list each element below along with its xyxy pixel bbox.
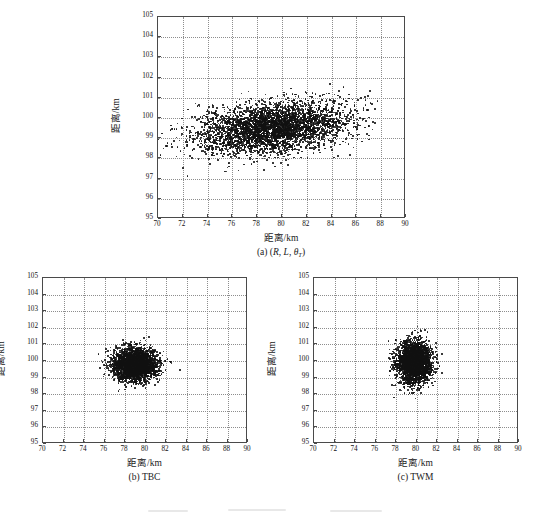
scatter-point: [218, 133, 220, 135]
scatter-point: [315, 122, 317, 124]
scatter-point: [415, 377, 417, 379]
scatter-point: [161, 373, 163, 375]
scatter-point: [333, 100, 335, 102]
y-tick-label: 96: [287, 423, 309, 430]
caption-a: (a) (R, L, θT): [157, 247, 405, 258]
y-tick-label: 99: [131, 134, 153, 141]
scatter-point: [141, 379, 143, 381]
scatter-point: [411, 369, 413, 371]
scatter-point: [313, 149, 315, 151]
x-axis-title-c: 距离/km: [313, 459, 518, 469]
scatter-point: [305, 146, 307, 148]
y-tick-mark: [314, 443, 317, 444]
y-tick-label: 98: [287, 390, 309, 397]
scatter-point: [159, 375, 161, 377]
scatter-point: [416, 366, 418, 368]
x-tick-mark: [395, 439, 396, 442]
scatter-point: [298, 149, 300, 151]
gridline-vertical: [183, 17, 184, 217]
scatter-point: [272, 147, 274, 149]
scatter-point: [242, 149, 244, 151]
scatter-point: [350, 110, 352, 112]
scatter-point: [273, 144, 275, 146]
scatter-point: [330, 146, 332, 148]
x-tick-mark: [247, 439, 248, 442]
scatter-point: [234, 108, 236, 110]
scatter-point: [312, 92, 314, 94]
y-tick-label: 101: [287, 340, 309, 347]
scatter-point: [294, 148, 296, 150]
scatter-point: [302, 141, 304, 143]
scatter-point: [276, 107, 278, 109]
scatter-point: [135, 357, 137, 359]
scatter-point: [279, 120, 281, 122]
scatter-point: [265, 94, 267, 96]
scatter-point: [281, 111, 283, 113]
scatter-point: [255, 103, 257, 105]
scatter-point: [167, 358, 169, 360]
scatter-point: [340, 104, 342, 106]
scatter-point: [338, 90, 340, 92]
scatter-point: [337, 126, 339, 128]
scatter-point: [267, 143, 269, 145]
scatter-point: [245, 112, 247, 114]
scatter-point: [289, 138, 291, 140]
scatter-point: [321, 99, 323, 101]
scatter-point: [432, 362, 434, 364]
scatter-point: [407, 389, 409, 391]
scatter-point: [228, 162, 230, 164]
scatter-point: [319, 152, 321, 154]
scatter-point: [359, 125, 361, 127]
scatter-point: [262, 152, 264, 154]
scatter-point: [118, 390, 120, 392]
scatter-point: [245, 101, 247, 103]
scatter-point: [287, 102, 289, 104]
scatter-point: [286, 122, 288, 124]
scatter-point: [392, 356, 394, 358]
scatter-point: [304, 130, 306, 132]
scatter-point: [426, 336, 428, 338]
scatter-point: [252, 152, 254, 154]
x-tick-label: 80: [141, 446, 148, 453]
scatter-point: [424, 329, 426, 331]
scatter-point: [344, 124, 346, 126]
scatter-point: [267, 148, 269, 150]
scatter-point: [261, 103, 263, 105]
scatter-point: [253, 137, 255, 139]
scatter-point: [202, 133, 204, 135]
scatter-point: [427, 331, 429, 333]
scatter-point: [266, 159, 268, 161]
scatter-point: [231, 146, 233, 148]
scatter-point: [347, 123, 349, 125]
scatter-point: [229, 109, 231, 111]
scatter-point: [227, 113, 229, 115]
scatter-point: [287, 164, 289, 166]
scatter-point: [148, 382, 150, 384]
scatter-point: [257, 107, 259, 109]
scatter-point: [289, 114, 291, 116]
y-axis-title-c: 距离/km: [268, 276, 278, 442]
scatter-point: [104, 359, 106, 361]
scatter-point: [252, 120, 254, 122]
scatter-point: [103, 364, 105, 366]
scatter-point: [404, 363, 406, 365]
scatter-point: [255, 131, 257, 133]
scatter-point: [212, 107, 214, 109]
scatter-point: [217, 120, 219, 122]
scatter-point: [144, 348, 146, 350]
scatter-point: [396, 360, 398, 362]
scatter-point: [252, 159, 254, 161]
scatter-point: [208, 158, 210, 160]
scatter-point: [152, 354, 154, 356]
scatter-point: [260, 140, 262, 142]
scatter-point: [181, 133, 183, 135]
gridline-vertical: [84, 278, 85, 442]
scatter-point: [111, 358, 113, 360]
x-tick-label: 72: [178, 221, 185, 228]
scatter-point: [339, 112, 341, 114]
y-tick-label: 98: [16, 390, 38, 397]
scatter-point: [277, 145, 279, 147]
y-tick-mark: [158, 56, 161, 57]
x-tick-label: 78: [253, 221, 260, 228]
x-tick-mark: [165, 439, 166, 442]
